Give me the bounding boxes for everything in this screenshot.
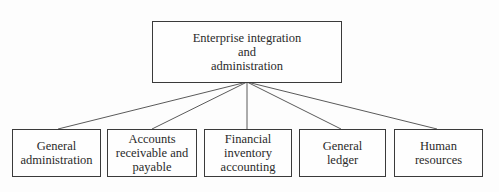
org-chart-diagram: Enterprise integration and administratio… <box>0 0 499 192</box>
node-human-resources: Human resources <box>394 129 483 177</box>
edge-root-general-administration <box>58 82 247 129</box>
root-node-label: Enterprise integration and administratio… <box>193 31 302 73</box>
node-general-ledger: General ledger <box>299 129 386 177</box>
node-label: Financial inventory accounting <box>221 132 276 174</box>
node-accounts-receivable-payable: Accounts receivable and payable <box>107 129 197 177</box>
node-label: Human resources <box>415 139 462 167</box>
node-financial-inventory-accounting: Financial inventory accounting <box>204 129 292 177</box>
edge-root-general-ledger <box>247 82 341 129</box>
node-label: General administration <box>20 139 92 167</box>
node-label: Accounts receivable and payable <box>116 132 189 174</box>
root-node-enterprise-integration: Enterprise integration and administratio… <box>152 21 342 83</box>
edge-root-human-resources <box>247 82 437 129</box>
edge-root-accounts <box>152 82 247 129</box>
node-label: General ledger <box>323 139 363 167</box>
node-general-administration: General administration <box>12 129 101 177</box>
